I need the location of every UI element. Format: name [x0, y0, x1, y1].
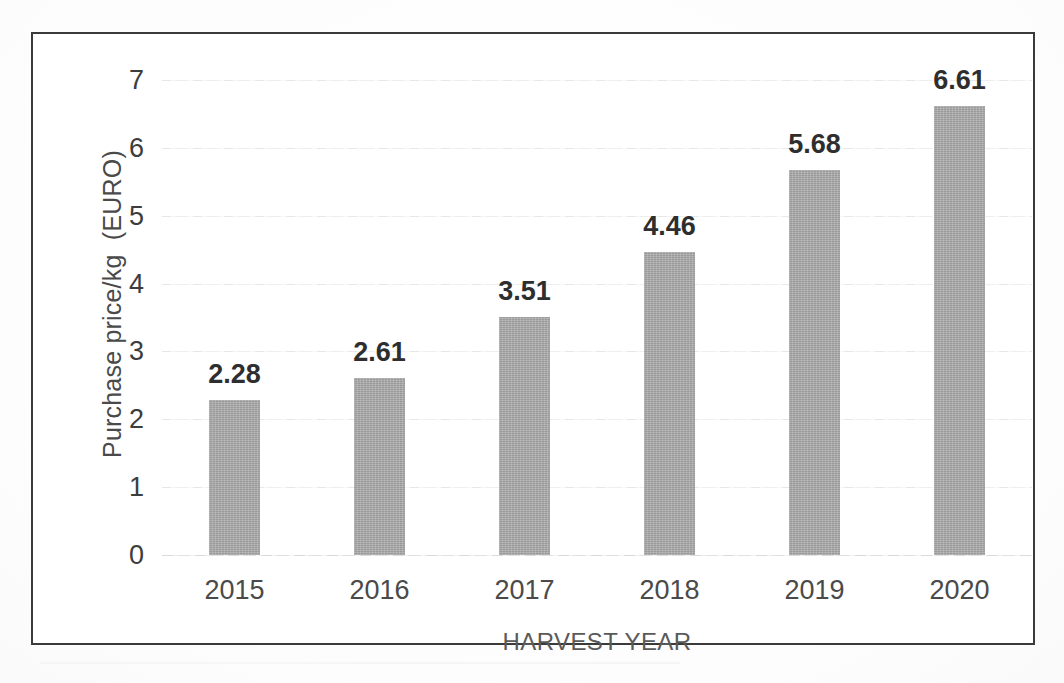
gridline	[162, 419, 1032, 420]
scan-artifact	[40, 662, 680, 664]
bar[interactable]	[354, 378, 405, 555]
gridline	[162, 216, 1032, 217]
gridline	[162, 555, 1032, 556]
y-axis-tick-label: 0	[129, 542, 144, 569]
y-axis-tick-label: 6	[129, 134, 144, 161]
gridline	[162, 80, 1032, 81]
bar-value-label: 5.68	[788, 131, 841, 158]
y-axis-tick-label: 5	[129, 202, 144, 229]
bar-value-label: 2.61	[353, 339, 406, 366]
bar[interactable]	[499, 317, 550, 555]
bar[interactable]	[644, 252, 695, 555]
x-axis-tick-label: 2017	[494, 577, 554, 604]
x-axis-title: HARVEST YEAR	[162, 628, 1032, 656]
x-axis-tick-label: 2015	[204, 577, 264, 604]
y-axis-title: Purchase price/kg (EURO)	[95, 64, 129, 544]
bar-value-label: 4.46	[643, 213, 696, 240]
gridline	[162, 284, 1032, 285]
gridline	[162, 148, 1032, 149]
y-axis-tick-label: 3	[129, 338, 144, 365]
y-axis-tick-label: 1	[129, 474, 144, 501]
bar[interactable]	[209, 400, 260, 555]
bar[interactable]	[934, 106, 985, 555]
plot-area: 012345672.2820152.6120163.5120174.462018…	[162, 80, 1032, 555]
x-axis-tick-label: 2019	[784, 577, 844, 604]
bar-value-label: 2.28	[208, 361, 261, 388]
chart-frame: Purchase price/kg (EURO) 012345672.28201…	[31, 32, 1035, 645]
y-axis-tick-label: 2	[129, 406, 144, 433]
bar-value-label: 3.51	[498, 278, 551, 305]
y-axis-tick-label: 4	[129, 270, 144, 297]
x-axis-tick-label: 2016	[349, 577, 409, 604]
y-axis-tick-label: 7	[129, 67, 144, 94]
gridline	[162, 487, 1032, 488]
gridline	[162, 351, 1032, 352]
bar[interactable]	[789, 170, 840, 555]
x-axis-tick-label: 2020	[929, 577, 989, 604]
bar-value-label: 6.61	[933, 67, 986, 94]
x-axis-tick-label: 2018	[639, 577, 699, 604]
